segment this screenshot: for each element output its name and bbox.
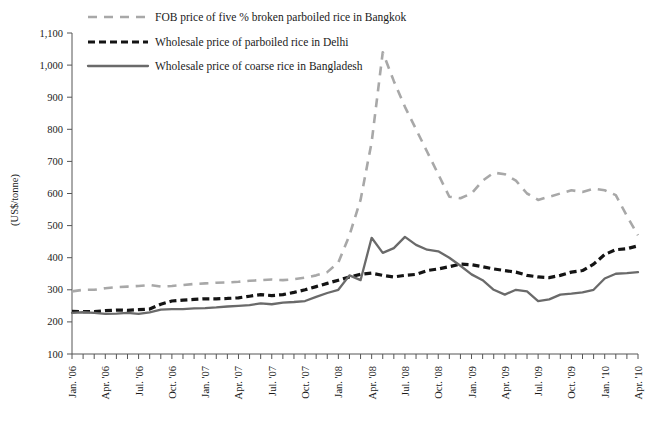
- legend-label-2: Wholesale price of coarse rice in Bangla…: [155, 60, 363, 73]
- x-tick-label: Oct. '06: [167, 366, 178, 399]
- legend-label-1: Wholesale price of parboiled rice in Del…: [155, 36, 349, 49]
- y-tick-label: 1,100: [39, 28, 63, 39]
- rice-price-line-chart: FOB price of five % broken parboiled ric…: [0, 0, 655, 422]
- x-tick-label: Oct. '07: [300, 366, 311, 399]
- x-tick-label: Jul. '07: [267, 366, 278, 396]
- x-tick-label: Oct. '08: [433, 366, 444, 399]
- x-tick-label: Apr. '08: [367, 366, 378, 399]
- y-tick-label: 400: [47, 252, 63, 263]
- y-tick-label: 1,000: [39, 60, 63, 71]
- y-axis-title: (US$/tonne): [9, 174, 21, 226]
- y-axis: 1002003004005006007008009001,0001,100: [39, 28, 72, 360]
- chart-canvas: FOB price of five % broken parboiled ric…: [0, 0, 655, 422]
- x-tick-label: Apr. '07: [233, 366, 244, 399]
- x-tick-label: Jan. '07: [200, 366, 211, 398]
- y-tick-label: 900: [47, 92, 63, 103]
- series-line-0: [72, 52, 638, 291]
- x-tick-label: Apr. '06: [100, 366, 111, 399]
- x-tick-label: Oct. '09: [566, 366, 577, 399]
- x-tick-label: Jan. '10: [600, 366, 611, 398]
- chart-legend: FOB price of five % broken parboiled ric…: [88, 11, 407, 73]
- x-tick-label: Apr. '10: [633, 366, 644, 399]
- y-tick-label: 300: [47, 284, 63, 295]
- y-tick-label: 800: [47, 124, 63, 135]
- data-series-group: [72, 52, 638, 314]
- y-tick-label: 100: [47, 349, 63, 360]
- y-tick-label: 600: [47, 188, 63, 199]
- x-tick-label: Jan. '06: [67, 366, 78, 398]
- x-tick-label: Apr. '09: [500, 366, 511, 399]
- x-axis: Jan. '06Apr. '06Jul. '06Oct. '06Jan. '07…: [67, 354, 644, 399]
- x-tick-label: Jan. '09: [467, 366, 478, 398]
- x-tick-label: Jul. '08: [400, 366, 411, 396]
- y-tick-label: 200: [47, 316, 63, 327]
- x-tick-label: Jul. '09: [533, 366, 544, 396]
- x-tick-label: Jul. '06: [134, 366, 145, 396]
- y-tick-label: 500: [47, 220, 63, 231]
- legend-label-0: FOB price of five % broken parboiled ric…: [155, 11, 407, 24]
- y-tick-label: 700: [47, 156, 63, 167]
- x-tick-label: Jan. '08: [333, 366, 344, 398]
